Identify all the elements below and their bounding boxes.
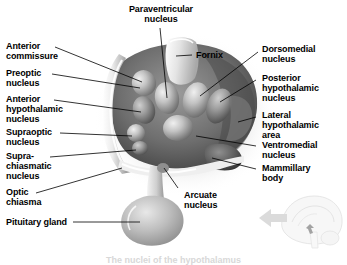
label-mammillary-body: Mammillary body	[262, 163, 311, 183]
label-optic-chiasma: Optic chiasma	[6, 187, 41, 207]
hypothalamus-figure: Paraventricular nucleus Fornix Anterior …	[0, 0, 347, 265]
label-lateral-hypothalamic-area: Lateral hypothalamic area	[262, 110, 319, 141]
label-suprachiasmatic-nucleus: Supra- chiasmatic nucleus	[6, 151, 52, 182]
label-arcuate-nucleus: Arcuate nucleus	[184, 190, 217, 210]
label-pituitary-gland: Pituitary gland	[6, 217, 67, 227]
label-supraoptic-nucleus: Supraoptic nucleus	[6, 127, 52, 147]
label-anterior-commissure: Anterior commissure	[6, 41, 58, 61]
label-fornix: Fornix	[196, 50, 223, 60]
figure-caption: The nuclei of the hypothalamus	[0, 255, 347, 265]
label-preoptic-nucleus: Preoptic nucleus	[6, 68, 41, 88]
label-anterior-hypothalamic-nucleus: Anterior hypothalamic nucleus	[6, 94, 63, 125]
label-dorsomedial-nucleus: Dorsomedial nucleus	[262, 44, 315, 64]
label-posterior-hypothalamic-nucleus: Posterior hypothalamic nucleus	[262, 73, 319, 104]
label-layer: Paraventricular nucleus Fornix Anterior …	[0, 0, 347, 265]
label-paraventricular-nucleus: Paraventricular nucleus	[95, 4, 227, 24]
label-ventromedial-nucleus: Ventromedial nucleus	[262, 140, 317, 160]
